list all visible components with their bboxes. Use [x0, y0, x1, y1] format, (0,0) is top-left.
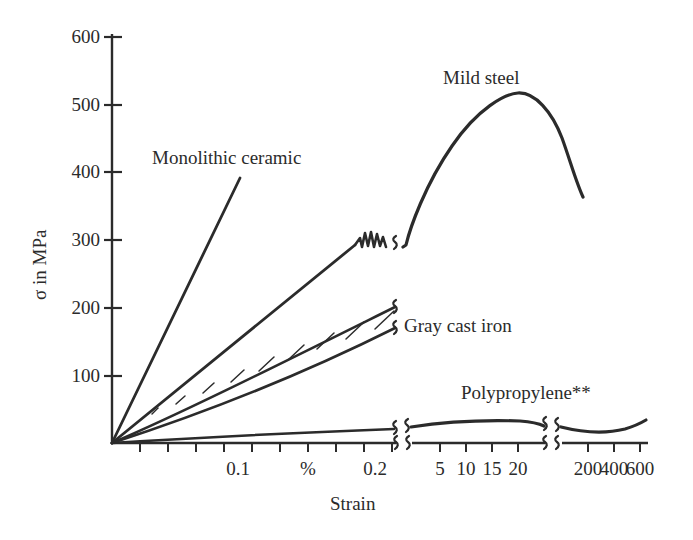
ytick-label-500: 500: [38, 95, 100, 114]
ytick-label-400: 400: [38, 162, 100, 181]
ytick-label-200: 200: [38, 298, 100, 317]
polypropylene-label: Polypropylene**: [461, 383, 591, 402]
xtick-label-15: 15: [478, 459, 506, 478]
xtick-label-600: 600: [619, 459, 661, 478]
monolithic-ceramic-label: Monolithic ceramic: [152, 148, 301, 167]
xtick-label-10: 10: [452, 459, 480, 478]
xtick-label-0.1: 0.1: [213, 459, 263, 478]
x-axis-title: Strain: [330, 494, 375, 513]
mild-steel-label: Mild steel: [443, 68, 520, 87]
xtick-label-5: 5: [427, 459, 453, 478]
ytick-label-600: 600: [38, 27, 100, 46]
x-axis-ticks-segment-1: [140, 443, 392, 452]
mild-steel-break-mark: [393, 236, 397, 249]
x-axis-ticks-segment-3: [588, 443, 640, 452]
series-polypropylene: [112, 417, 646, 443]
mild-steel-yield-serration: [355, 232, 386, 247]
xtick-label-percent-unit: %: [283, 459, 333, 478]
y-axis-title: σ in MPa: [30, 230, 49, 300]
mild-steel-plastic-curve: [403, 93, 583, 247]
polypropylene-segment-2: [411, 421, 544, 427]
stress-strain-figure: 600 500 400 300 200 100 σ in MPa 0.1 % 0…: [0, 0, 693, 540]
x-axis-ticks-segment-2: [440, 443, 518, 452]
gray-cast-iron-lower-bound: [112, 328, 395, 443]
xtick-label-0.2: 0.2: [350, 459, 400, 478]
polypropylene-segment-3: [561, 420, 646, 432]
axis-break-mark-2: [543, 436, 559, 449]
axis-break-mark-1: [394, 436, 410, 449]
ytick-label-100: 100: [38, 366, 100, 385]
polypropylene-segment-1: [112, 429, 394, 443]
xtick-label-20: 20: [504, 459, 532, 478]
gray-cast-iron-label: Gray cast iron: [404, 316, 512, 335]
series-gray-cast-iron: [112, 300, 397, 443]
